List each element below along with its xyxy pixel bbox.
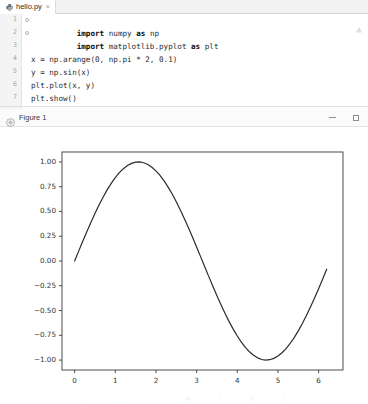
python-file-icon [6, 3, 13, 11]
maximize-icon [353, 115, 359, 121]
x-tick-label: 1 [105, 376, 125, 385]
code-line: plt.plot(x, y) [31, 79, 95, 92]
code-area[interactable]: 1 2 3 4 5 6 7 import numpy as np import … [0, 14, 368, 109]
code-lines[interactable]: import numpy as np import matplotlib.pyp… [31, 14, 354, 109]
x-tick-label: 5 [268, 376, 288, 385]
y-tick-label: −0.25 [34, 281, 56, 290]
fold-marker-icon[interactable] [25, 18, 29, 22]
toolbar-icon[interactable]: → [150, 396, 156, 402]
figure-navigation-toolbar[interactable]: ⌂←→✚⌕⚙⤓ [70, 394, 300, 403]
x-tick-label: 2 [146, 376, 166, 385]
toolbar-icon[interactable]: ⤓ [283, 395, 286, 402]
line-number: 6 [0, 80, 17, 88]
minimize-icon [329, 117, 336, 118]
figure-window-title: Figure 1 [19, 113, 47, 122]
editor-tabbar: hello.py × [0, 0, 368, 14]
line-number: 3 [0, 41, 17, 49]
toolbar-icon[interactable]: ⌕ [218, 395, 221, 402]
window-controls [320, 109, 368, 127]
minimize-button[interactable] [320, 109, 344, 127]
line-number: 7 [0, 93, 17, 101]
matplotlib-icon [6, 113, 15, 122]
y-tick-label: 0.00 [40, 256, 56, 265]
y-tick-label: −0.50 [34, 306, 56, 315]
screen: hello.py × 1 2 3 4 5 6 7 import numpy as… [0, 0, 368, 404]
maximize-button[interactable] [344, 109, 368, 127]
x-tick-label: 4 [227, 376, 247, 385]
code-editor-pane: hello.py × 1 2 3 4 5 6 7 import numpy as… [0, 0, 368, 109]
code-line: x = np.arange(0, np.pi * 2, 0.1) [31, 53, 177, 66]
toolbar-icon[interactable]: ⚙ [249, 395, 254, 402]
code-fold-column[interactable] [23, 14, 31, 109]
x-tick-label: 3 [187, 376, 207, 385]
code-line: y = np.sin(x) [31, 66, 90, 79]
figure-canvas[interactable]: −1.00−0.75−0.50−0.250.000.250.500.751.00… [0, 127, 368, 404]
y-tick-label: 1.00 [40, 157, 56, 166]
code-line: plt.show() [31, 92, 77, 105]
editor-tab-label: hello.py [16, 2, 42, 11]
y-tick-label: 0.75 [40, 182, 56, 191]
x-tick-label: 0 [65, 376, 85, 385]
close-icon[interactable]: × [45, 3, 50, 10]
x-tick-label: 6 [309, 376, 329, 385]
inspection-warning-icon[interactable] [355, 20, 363, 28]
line-number: 4 [0, 54, 17, 62]
toolbar-icon[interactable]: ⌂ [84, 396, 88, 402]
toolbar-icon[interactable]: ✚ [185, 395, 190, 402]
toolbar-icon[interactable]: ← [116, 396, 122, 402]
fold-marker-icon[interactable] [25, 31, 29, 35]
line-number: 2 [0, 28, 17, 36]
editor-tab-hello-py[interactable]: hello.py × [0, 0, 56, 14]
line-number: 5 [0, 67, 17, 75]
editor-divider [0, 106, 368, 107]
y-tick-label: −1.00 [34, 355, 56, 364]
code-line: import numpy as np [31, 14, 159, 27]
line-number: 1 [0, 15, 17, 23]
figure-window: Figure 1 −1.00−0.75−0.50−0.250.000.250.5… [0, 109, 368, 404]
figure-titlebar[interactable]: Figure 1 [0, 109, 368, 127]
code-line: import matplotlib.pyplot as plt [31, 27, 218, 40]
y-tick-label: −0.75 [34, 330, 56, 339]
y-tick-label: 0.50 [40, 206, 56, 215]
y-tick-label: 0.25 [40, 231, 56, 240]
line-number-gutter: 1 2 3 4 5 6 7 [0, 14, 22, 109]
